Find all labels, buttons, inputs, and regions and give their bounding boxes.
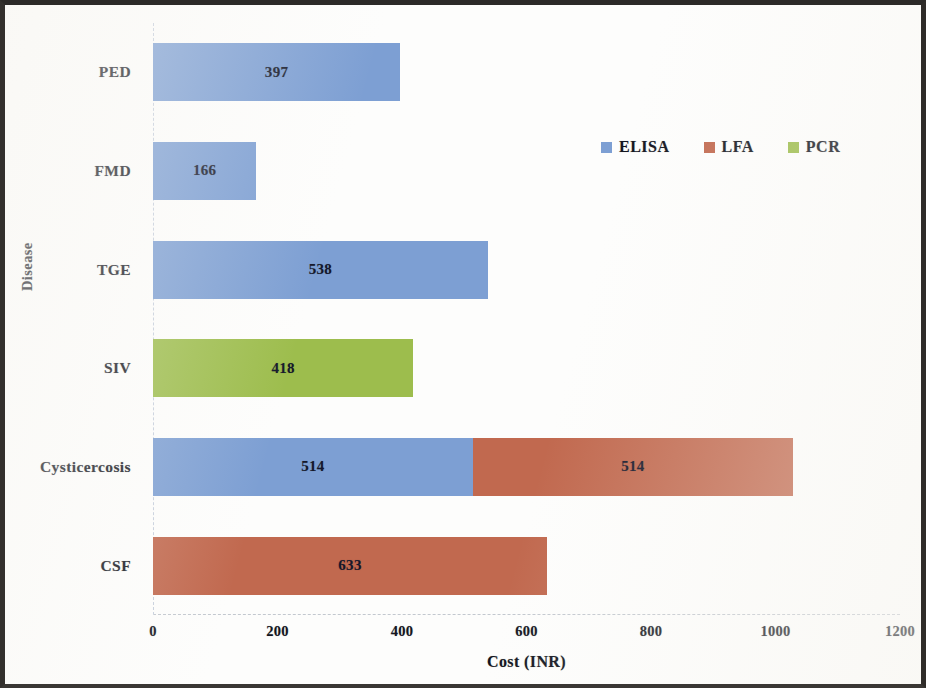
y-axis-label-siv: SIV — [0, 359, 131, 377]
legend-label: PCR — [806, 138, 840, 156]
bar-row: 633 — [153, 516, 900, 615]
bar-value-label: 418 — [271, 360, 294, 377]
bar-ped[interactable]: 397 — [153, 43, 400, 101]
bar-segment-elisa[interactable]: 166 — [153, 142, 256, 200]
y-axis-label-csf: CSF — [0, 557, 131, 575]
bar-value-label: 514 — [621, 458, 644, 475]
bar-segment-pcr[interactable]: 418 — [153, 339, 413, 397]
legend-item-elisa[interactable]: ELISA — [601, 138, 670, 156]
plot-area: 397166538418514514633 — [153, 23, 900, 615]
x-axis-tick-1000: 1000 — [760, 623, 790, 640]
x-axis-tick-0: 0 — [149, 623, 157, 640]
bar-segment-elisa[interactable]: 538 — [153, 241, 488, 299]
bar-row: 418 — [153, 319, 900, 418]
y-axis-title: Disease — [19, 242, 36, 291]
x-axis-title: Cost (INR) — [153, 653, 900, 671]
bar-row: 514514 — [153, 418, 900, 517]
bar-fmd[interactable]: 166 — [153, 142, 256, 200]
bar-value-label: 633 — [338, 557, 361, 574]
chart-legend: ELISALFAPCR — [601, 138, 840, 156]
bar-siv[interactable]: 418 — [153, 339, 413, 397]
legend-swatch-icon — [601, 142, 612, 153]
bar-value-label: 166 — [193, 162, 216, 179]
x-axis-tick-400: 400 — [391, 623, 414, 640]
bar-segment-lfa[interactable]: 633 — [153, 537, 547, 595]
bar-value-label: 538 — [309, 261, 332, 278]
legend-label: LFA — [722, 138, 754, 156]
bar-row: 166 — [153, 122, 900, 221]
legend-label: ELISA — [619, 138, 670, 156]
y-axis-label-cysticercosis: Cysticercosis — [0, 458, 131, 476]
legend-item-pcr[interactable]: PCR — [788, 138, 840, 156]
y-axis-label-ped: PED — [0, 63, 131, 81]
bar-segment-lfa[interactable]: 514 — [473, 438, 793, 496]
x-axis-tick-600: 600 — [515, 623, 538, 640]
bar-csf[interactable]: 633 — [153, 537, 547, 595]
chart-figure: 397166538418514514633 PEDFMDTGESIVCystic… — [0, 0, 926, 688]
bar-tge[interactable]: 538 — [153, 241, 488, 299]
legend-swatch-icon — [704, 142, 715, 153]
x-axis-tick-1200: 1200 — [885, 623, 915, 640]
bar-segment-elisa[interactable]: 514 — [153, 438, 473, 496]
bar-cysticercosis[interactable]: 514514 — [153, 438, 793, 496]
legend-swatch-icon — [788, 142, 799, 153]
x-axis-tick-800: 800 — [640, 623, 663, 640]
bar-value-label: 397 — [265, 64, 288, 81]
bar-row: 397 — [153, 23, 900, 122]
bar-value-label: 514 — [301, 458, 324, 475]
legend-item-lfa[interactable]: LFA — [704, 138, 754, 156]
y-axis-label-fmd: FMD — [0, 162, 131, 180]
x-axis-tick-200: 200 — [266, 623, 289, 640]
bar-segment-elisa[interactable]: 397 — [153, 43, 400, 101]
bar-row: 538 — [153, 220, 900, 319]
